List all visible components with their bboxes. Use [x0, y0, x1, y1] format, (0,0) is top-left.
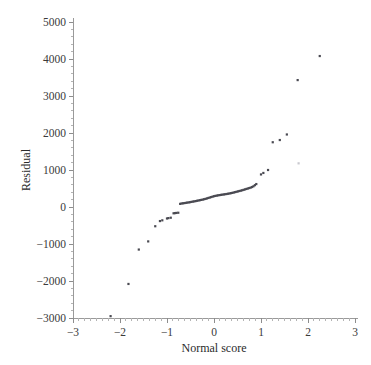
data-point [147, 240, 149, 242]
y-tick-label: 0 [60, 201, 66, 213]
data-point [154, 225, 156, 227]
data-point [159, 220, 161, 222]
y-tick-label: −1000 [37, 238, 67, 250]
x-axis-group: −3−2−10123 [67, 318, 358, 338]
y-tick-label: −2000 [37, 275, 67, 287]
data-point [267, 169, 269, 171]
y-tick-label: 2000 [43, 127, 66, 139]
data-point [110, 315, 112, 317]
data-point [297, 79, 299, 81]
data-point [272, 141, 274, 143]
data-point [319, 55, 321, 57]
y-axis-group: −3000−2000−1000010002000300040005000 [37, 16, 74, 324]
data-point [279, 139, 281, 141]
y-tick-label: −3000 [37, 312, 67, 324]
normal-probability-plot: −3000−2000−1000010002000300040005000 −3−… [0, 0, 371, 365]
data-point [170, 217, 172, 219]
y-tick-label: 5000 [43, 16, 66, 28]
data-point [255, 183, 257, 185]
data-point [167, 217, 169, 219]
data-point [286, 133, 288, 135]
data-point [161, 219, 163, 221]
y-tick-label: 3000 [43, 90, 66, 102]
x-tick-label: −1 [161, 326, 173, 338]
x-axis-title: Normal score [182, 341, 247, 355]
x-tick-label: 3 [352, 326, 358, 338]
x-tick-label: −3 [67, 326, 79, 338]
data-point [138, 248, 140, 250]
data-point [177, 212, 179, 214]
y-tick-label: 4000 [43, 53, 66, 65]
data-point [175, 212, 177, 214]
data-point [127, 283, 129, 285]
plot-canvas: −3000−2000−1000010002000300040005000 −3−… [0, 0, 371, 365]
data-point [260, 173, 262, 175]
x-tick-label: 0 [211, 326, 217, 338]
y-tick-label: 1000 [43, 164, 66, 176]
x-tick-label: −2 [114, 326, 126, 338]
data-point-faint [298, 162, 300, 164]
data-point [262, 172, 264, 174]
x-tick-label: 1 [258, 326, 264, 338]
x-tick-label: 2 [305, 326, 311, 338]
y-axis-title: Residual [19, 148, 33, 191]
data-points-group [110, 55, 321, 317]
